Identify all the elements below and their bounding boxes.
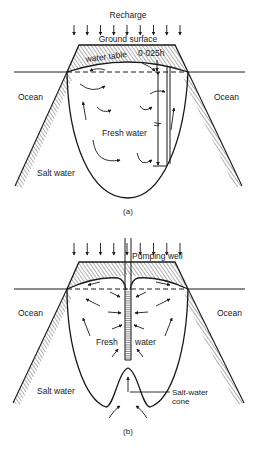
ocean-left-label: Ocean <box>18 92 43 102</box>
panel-a-caption: (a) <box>123 207 133 216</box>
water-label: water <box>134 337 156 347</box>
ocean-right-label: Ocean <box>214 92 239 102</box>
salt-water-cone-label-line2: cone <box>172 397 190 406</box>
island-freshwater-lens-diagram: Recharge Ground surface water table 0·02… <box>0 0 259 450</box>
recharge-label: Recharge <box>110 10 147 20</box>
water-table-height-label: 0·025h <box>138 48 165 58</box>
ocean-left-label: Ocean <box>18 308 43 318</box>
salt-water-cone-label-line1: Salt-water <box>172 388 208 397</box>
panel-b-caption: (b) <box>123 427 133 436</box>
pumping-well-label: Pumping well <box>132 251 183 261</box>
ground-surface-label: Ground surface <box>99 34 158 44</box>
freshwater-lens-boundary <box>67 289 188 407</box>
ocean-right-label: Ocean <box>217 308 242 318</box>
right-slope <box>188 289 244 403</box>
fresh-label: Fresh <box>96 337 118 347</box>
panel-b: Pumping well <box>13 238 245 436</box>
flow-arrows-a <box>80 63 174 163</box>
flow-arrows-b <box>83 282 172 418</box>
salt-water-label: Salt water <box>37 386 75 396</box>
panel-a: Recharge Ground surface water table 0·02… <box>14 10 245 216</box>
pumping-well <box>125 238 131 360</box>
depth-h-label: h <box>152 122 162 127</box>
well-screen <box>125 292 131 358</box>
salt-water-label: Salt water <box>37 168 75 178</box>
right-slope <box>188 72 242 186</box>
right-slope-hatch <box>184 72 242 188</box>
fresh-water-label: Fresh water <box>102 128 147 138</box>
